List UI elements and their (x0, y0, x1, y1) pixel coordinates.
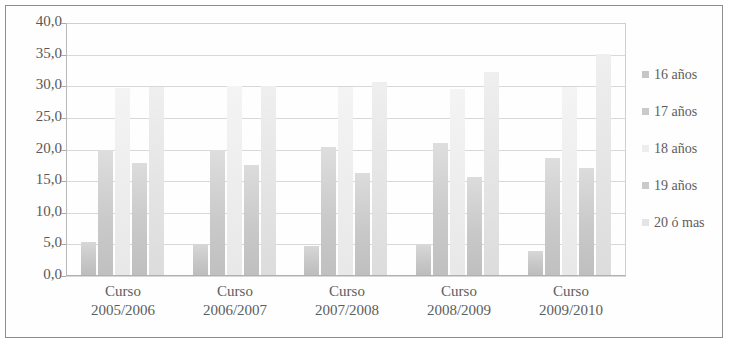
bar-group (179, 23, 291, 275)
legend-item[interactable]: 17 años (642, 93, 730, 130)
legend-label: 19 años (654, 178, 697, 194)
bar (372, 82, 387, 275)
y-axis-tick-label: 30,0 (36, 77, 62, 92)
bar (321, 147, 336, 275)
bar-group (513, 23, 625, 275)
y-axis-tick (61, 150, 66, 151)
x-axis-category-line: 2005/2006 (67, 301, 179, 320)
bar-group (290, 23, 402, 275)
x-axis-category-line: Curso (67, 282, 179, 301)
bar (416, 245, 431, 275)
bar (528, 251, 543, 275)
x-axis-category-label: Curso2008/2009 (403, 282, 515, 334)
x-axis-category-line: 2006/2007 (179, 301, 291, 320)
x-axis-category-line: 2009/2010 (515, 301, 627, 320)
bar (193, 244, 208, 275)
bar (244, 165, 259, 275)
bar (149, 87, 164, 275)
bar (304, 246, 319, 275)
bar (98, 150, 113, 276)
x-axis-category-line: 2008/2009 (403, 301, 515, 320)
legend-item[interactable]: 19 años (642, 167, 730, 204)
bar-group (67, 23, 179, 275)
legend-swatch-icon (642, 219, 649, 226)
legend-label: 16 años (654, 67, 697, 83)
y-axis-tick-label: 0,0 (43, 267, 62, 282)
x-axis-category-label: Curso2005/2006 (67, 282, 179, 334)
bar (355, 173, 370, 275)
bar (484, 72, 499, 275)
x-axis-category-label: Curso2009/2010 (515, 282, 627, 334)
bar (81, 242, 96, 275)
y-axis-tick-label: 15,0 (36, 172, 62, 187)
y-axis-tick (61, 23, 66, 24)
bar (450, 89, 465, 275)
y-axis-tick (61, 244, 66, 245)
bar (562, 87, 577, 275)
legend-label: 17 años (654, 104, 697, 120)
chart-figure: 0,05,010,015,020,025,030,035,040,0 Curso… (5, 5, 723, 338)
bar (545, 158, 560, 275)
y-axis-tick (61, 86, 66, 87)
y-axis-tick (61, 181, 66, 182)
legend-swatch-icon (642, 108, 649, 115)
bar-groups (67, 23, 625, 275)
x-axis-category-label: Curso2006/2007 (179, 282, 291, 334)
bar (579, 168, 594, 275)
legend-item[interactable]: 20 ó mas (642, 204, 730, 241)
y-axis-tick-label: 5,0 (43, 235, 62, 250)
y-axis-labels: 0,05,010,015,020,025,030,035,040,0 (6, 6, 62, 296)
bar-group (402, 23, 514, 275)
y-axis-tick-label: 20,0 (36, 141, 62, 156)
x-axis-category-line: Curso (515, 282, 627, 301)
bar (338, 87, 353, 275)
y-axis-tick-label: 10,0 (36, 204, 62, 219)
legend-item[interactable]: 18 años (642, 130, 730, 167)
x-axis-category-line: Curso (179, 282, 291, 301)
x-axis-category-label: Curso2007/2008 (291, 282, 403, 334)
chart-legend: 16 años17 años18 años19 años20 ó mas (642, 56, 730, 241)
legend-swatch-icon (642, 71, 649, 78)
y-axis-tick-label: 25,0 (36, 109, 62, 124)
legend-item[interactable]: 16 años (642, 56, 730, 93)
bar (115, 88, 130, 275)
y-axis-tick (61, 213, 66, 214)
y-axis-tick-label: 35,0 (36, 46, 62, 61)
bar (132, 163, 147, 275)
gridline (66, 276, 626, 277)
bar (433, 143, 448, 275)
bar (596, 54, 611, 275)
bar (467, 177, 482, 275)
x-axis-category-line: Curso (291, 282, 403, 301)
x-axis-category-line: Curso (403, 282, 515, 301)
legend-swatch-icon (642, 145, 649, 152)
plot-area (66, 23, 626, 276)
x-axis-labels: Curso2005/2006Curso2006/2007Curso2007/20… (67, 282, 627, 334)
legend-label: 18 años (654, 141, 697, 157)
bar (227, 86, 242, 276)
legend-swatch-icon (642, 182, 649, 189)
bar (261, 86, 276, 275)
y-axis-tick-label: 40,0 (36, 14, 62, 29)
y-axis-tick (61, 276, 66, 277)
bar (210, 150, 225, 275)
x-axis-category-line: 2007/2008 (291, 301, 403, 320)
y-axis-tick (61, 118, 66, 119)
legend-label: 20 ó mas (654, 215, 705, 231)
y-axis-tick (61, 55, 66, 56)
